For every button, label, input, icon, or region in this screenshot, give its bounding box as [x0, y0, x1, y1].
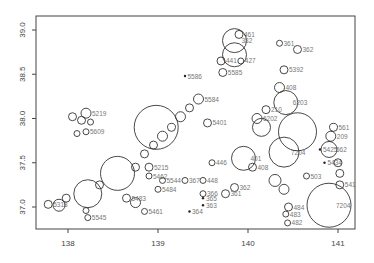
point-label: 382: [242, 37, 253, 44]
point-label: 5586: [188, 73, 203, 80]
point-label: 441: [226, 57, 237, 64]
point-label: 367: [189, 177, 200, 184]
data-point: [209, 160, 215, 166]
data-point: [141, 150, 149, 158]
point-label: 7204: [336, 202, 351, 209]
point-label: 5544: [167, 177, 182, 184]
data-point: [279, 184, 289, 194]
x-tick-label: 141: [331, 239, 345, 248]
x-tick-label: 140: [241, 239, 255, 248]
data-point: [330, 123, 338, 131]
point-label: 5585: [228, 69, 243, 76]
y-axis: 37.037.538.038.539.0: [18, 22, 36, 215]
data-point: [142, 208, 148, 214]
data-point: [262, 106, 270, 114]
data-point: [194, 94, 204, 104]
point-label: 363: [206, 202, 217, 209]
data-point: [188, 210, 190, 212]
data-point: [294, 45, 302, 53]
data-point: [96, 181, 104, 189]
data-point: [202, 204, 204, 206]
point-label: 483: [290, 211, 301, 218]
x-tick-label: 139: [151, 239, 165, 248]
data-point: [74, 180, 102, 208]
data-point: [74, 131, 80, 137]
point-label: 503: [311, 173, 322, 180]
data-point: [182, 177, 188, 183]
data-point: [88, 119, 94, 125]
data-point: [202, 197, 204, 199]
data-points: 5318554552195609558452155462548454615483…: [44, 29, 356, 228]
data-point: [219, 68, 227, 76]
y-tick-label: 37.0: [18, 199, 27, 215]
point-label: 482: [292, 219, 303, 226]
data-point: [123, 194, 131, 202]
x-axis: 138139140141: [61, 229, 345, 248]
point-label: 365: [206, 195, 217, 202]
bubble-scatter-chart: 37.037.538.038.539.0 138139140141 531855…: [0, 0, 374, 263]
point-label: 5392: [289, 66, 304, 73]
data-point: [285, 220, 291, 226]
data-point: [222, 190, 230, 198]
data-point: [277, 40, 283, 46]
data-point: [204, 119, 212, 127]
data-point: [155, 186, 161, 192]
data-point: [283, 211, 289, 217]
point-label: 5545: [92, 214, 107, 221]
point-label: 5584: [205, 96, 220, 103]
point-label: 364: [192, 208, 203, 215]
point-label: 408: [286, 84, 297, 91]
x-tick-label: 138: [61, 239, 75, 248]
y-tick-label: 38.0: [18, 110, 27, 126]
data-point: [101, 156, 135, 190]
point-label: 5609: [90, 128, 105, 135]
data-point: [132, 163, 140, 171]
data-point: [44, 200, 52, 208]
point-label: 5483: [132, 195, 147, 202]
data-point: [186, 104, 194, 112]
data-point: [85, 215, 91, 221]
point-label: 561: [339, 124, 350, 131]
point-label: 484: [294, 204, 305, 211]
data-point: [176, 112, 186, 122]
point-label: 446: [216, 159, 227, 166]
data-point: [323, 162, 325, 164]
data-point: [150, 141, 158, 149]
y-tick-label: 37.5: [18, 154, 27, 170]
data-point: [83, 208, 89, 214]
y-tick-label: 39.0: [18, 22, 27, 38]
data-point: [158, 131, 168, 141]
data-point: [269, 174, 281, 186]
data-point: [69, 113, 77, 121]
data-point: [168, 123, 176, 131]
point-label: 401: [251, 155, 262, 162]
point-label: 362: [303, 46, 314, 53]
point-label: 361: [284, 40, 295, 47]
point-label: 5215: [154, 164, 169, 171]
y-tick-label: 38.5: [18, 66, 27, 82]
data-point: [83, 129, 89, 135]
point-label: 427: [245, 57, 256, 64]
data-point: [146, 173, 152, 179]
data-point: [184, 75, 186, 77]
data-point: [280, 66, 288, 74]
point-label: 562: [336, 146, 347, 153]
point-label: 5219: [92, 110, 107, 117]
data-point: [134, 105, 178, 149]
point-label: 361: [231, 190, 242, 197]
data-point: [78, 116, 86, 124]
point-label: 5461: [149, 208, 164, 215]
point-label: 5484: [162, 186, 177, 193]
point-label: 448: [207, 177, 218, 184]
data-point: [336, 169, 344, 177]
data-point: [200, 177, 206, 183]
point-label: 6203: [293, 99, 308, 106]
data-point: [304, 173, 310, 179]
data-point: [326, 131, 336, 141]
data-point: [249, 163, 257, 171]
point-label: 6202: [263, 115, 278, 122]
point-label: 541: [345, 181, 356, 188]
point-label: 5401: [213, 119, 228, 126]
point-label: 408: [258, 164, 269, 171]
point-label: 209: [337, 133, 348, 140]
